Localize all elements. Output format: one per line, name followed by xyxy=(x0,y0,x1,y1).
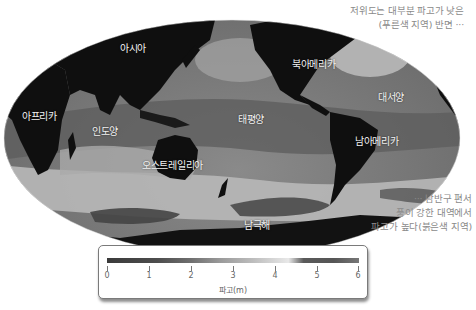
label-australia: 오스트레일리아 xyxy=(142,157,203,172)
tick-label: 2 xyxy=(188,271,193,280)
tick-label: 4 xyxy=(272,271,277,280)
label-north-america: 북아메리카 xyxy=(292,56,336,71)
annotation-southern-westerlies: ··· 남반구 편서 풍이 강한 대역에서 파고가 높다(붉은색 지역) xyxy=(371,192,472,234)
tick-label: 0 xyxy=(104,271,109,280)
label-south-america: 남아메리카 xyxy=(355,133,399,148)
tick-label: 5 xyxy=(314,271,319,280)
annotation-line: 파고가 높다(붉은색 지역) xyxy=(371,220,472,234)
colorbar-legend: 0 1 2 3 4 5 6 파고(m) xyxy=(98,245,368,299)
label-pacific: 태평양 xyxy=(238,111,264,126)
annotation-line: 저위도는 대부분 파고가 낮은 xyxy=(350,4,464,18)
label-southern-ocean: 남극해 xyxy=(244,217,270,232)
label-asia: 아시아 xyxy=(120,40,146,55)
label-africa: 아프리카 xyxy=(22,108,57,123)
tick-label: 1 xyxy=(146,271,151,280)
annotation-low-latitude: 저위도는 대부분 파고가 낮은 (푸른색 지역) 반면 ··· xyxy=(350,4,464,32)
annotation-line: ··· 남반구 편서 xyxy=(371,192,472,206)
tick-label: 3 xyxy=(230,271,235,280)
label-indian-ocean: 인도양 xyxy=(92,123,118,138)
annotation-line: 풍이 강한 대역에서 xyxy=(371,206,472,220)
colorbar-gradient xyxy=(107,258,359,263)
label-atlantic: 대서양 xyxy=(378,89,404,104)
annotation-line: (푸른색 지역) 반면 ··· xyxy=(350,18,464,32)
tick-label: 6 xyxy=(355,271,360,280)
colorbar-title: 파고(m) xyxy=(99,284,367,295)
